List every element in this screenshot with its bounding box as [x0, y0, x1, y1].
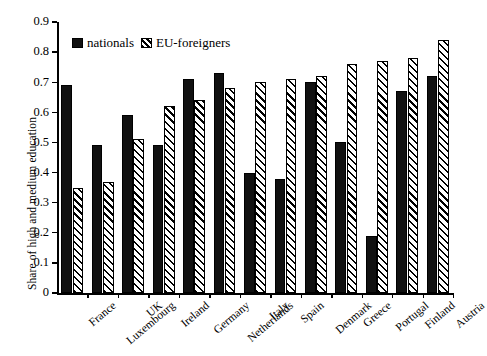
bar-eu-foreigners: [73, 188, 84, 293]
y-axis-tick: 0.1: [52, 262, 57, 263]
bar-eu-foreigners: [164, 106, 175, 293]
bar-eu-foreigners: [133, 139, 144, 293]
y-axis-tick-label: 0: [43, 283, 49, 301]
y-axis-tick-label: 0.7: [33, 73, 49, 91]
x-axis-tick: [87, 293, 88, 298]
x-axis-tick: [270, 293, 271, 298]
x-axis-line: [57, 293, 453, 295]
y-axis-tick: 0.3: [52, 202, 57, 203]
x-axis-tick: [179, 293, 180, 298]
x-axis-tick: [331, 293, 332, 298]
bar-eu-foreigners: [316, 76, 327, 293]
y-axis-tick-label: 0.8: [33, 42, 49, 60]
bar-nationals: [335, 142, 346, 293]
y-axis-line: [57, 22, 59, 293]
bar-nationals: [214, 73, 225, 293]
y-axis-tick-label: 0.1: [33, 253, 49, 271]
y-axis-tick-label: 0.9: [33, 12, 49, 30]
bar-eu-foreigners: [103, 182, 114, 293]
x-axis-label-text: Spain: [299, 299, 327, 326]
x-axis-label-text: Portugal: [393, 299, 431, 334]
bar-nationals: [275, 179, 286, 293]
bar-eu-foreigners: [377, 61, 388, 293]
bar-eu-foreigners: [286, 79, 297, 293]
x-axis-label-text: France: [87, 299, 119, 329]
x-axis-label: France: [87, 299, 119, 329]
bar-nationals: [61, 85, 72, 293]
x-axis-label: Portugal: [393, 299, 431, 334]
x-axis-tick: [453, 293, 454, 298]
bar-nationals: [183, 79, 194, 293]
y-axis-tick: 0.7: [52, 82, 57, 83]
y-axis-tick-label: 0.4: [33, 163, 49, 181]
x-axis-tick: [240, 293, 241, 298]
bar-nationals: [122, 115, 133, 293]
y-axis-tick: 0.9: [52, 21, 57, 22]
y-axis-tick: 0.6: [52, 112, 57, 113]
bar-nationals: [305, 82, 316, 293]
y-axis-tick-label: 0.6: [33, 103, 49, 121]
x-axis-tick: [301, 293, 302, 298]
x-axis-label-text: Germany: [211, 299, 252, 336]
bar-eu-foreigners: [438, 40, 449, 293]
x-axis-tick: [148, 293, 149, 298]
bar-nationals: [244, 173, 255, 293]
y-axis-tick: 0.4: [52, 172, 57, 173]
x-axis-tick: [118, 293, 119, 298]
x-axis-label: Germany: [211, 299, 252, 336]
x-axis-label: Austria: [453, 299, 487, 331]
bar-eu-foreigners: [225, 88, 236, 293]
bar-nationals: [92, 145, 103, 293]
x-axis-tick: [423, 293, 424, 298]
y-axis-tick: 0.8: [52, 51, 57, 52]
bar-nationals: [153, 145, 164, 293]
x-axis-tick: [209, 293, 210, 298]
x-axis-label-text: Austria: [453, 299, 487, 331]
bar-eu-foreigners: [255, 82, 266, 293]
bar-eu-foreigners: [408, 58, 419, 293]
x-axis-tick: [392, 293, 393, 298]
y-axis-tick: 0.5: [52, 142, 57, 143]
y-axis-tick-label: 0.5: [33, 133, 49, 151]
x-axis-label: Ireland: [178, 299, 211, 330]
x-axis-label-text: Ireland: [178, 299, 211, 330]
bar-eu-foreigners: [194, 100, 205, 293]
y-axis-tick: 0: [52, 292, 57, 293]
y-axis-tick: 0.2: [52, 232, 57, 233]
x-axis-tick: [362, 293, 363, 298]
bar-nationals: [427, 76, 438, 293]
bar-nationals: [366, 236, 377, 293]
y-axis-tick-label: 0.2: [33, 223, 49, 241]
x-axis-label: Spain: [299, 299, 327, 326]
plot-area: 00.10.20.30.40.50.60.70.80.9 FranceLuxem…: [57, 22, 453, 293]
bar-eu-foreigners: [347, 64, 358, 293]
y-axis-tick-label: 0.3: [33, 193, 49, 211]
bar-nationals: [396, 91, 407, 293]
